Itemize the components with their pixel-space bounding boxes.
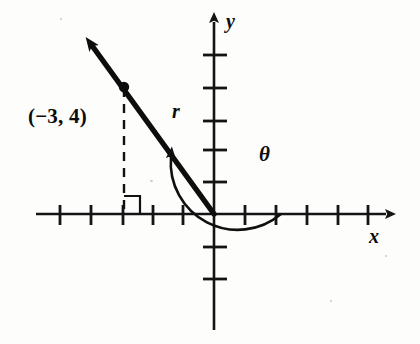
- figure-root: (−3, 4) r θ x y: [0, 0, 420, 344]
- y-axis: [203, 22, 227, 330]
- angle-label-theta: θ: [259, 142, 270, 167]
- paper-speck: [150, 180, 153, 182]
- paper-speck: [385, 255, 387, 257]
- terminal-ray-r: [93, 47, 214, 214]
- paper-speck: [330, 300, 332, 302]
- right-angle-marker: [124, 196, 140, 213]
- y-axis-label: y: [226, 10, 235, 33]
- point-marker-neg3-4: [119, 82, 129, 92]
- coordinate-plane-diagram: [0, 0, 420, 344]
- point-coordinate-label: (−3, 4): [28, 104, 87, 129]
- radius-label-r: r: [172, 100, 180, 123]
- x-axis-label: x: [369, 225, 379, 248]
- angle-arc-theta: [171, 157, 281, 230]
- paper-speck: [60, 18, 62, 20]
